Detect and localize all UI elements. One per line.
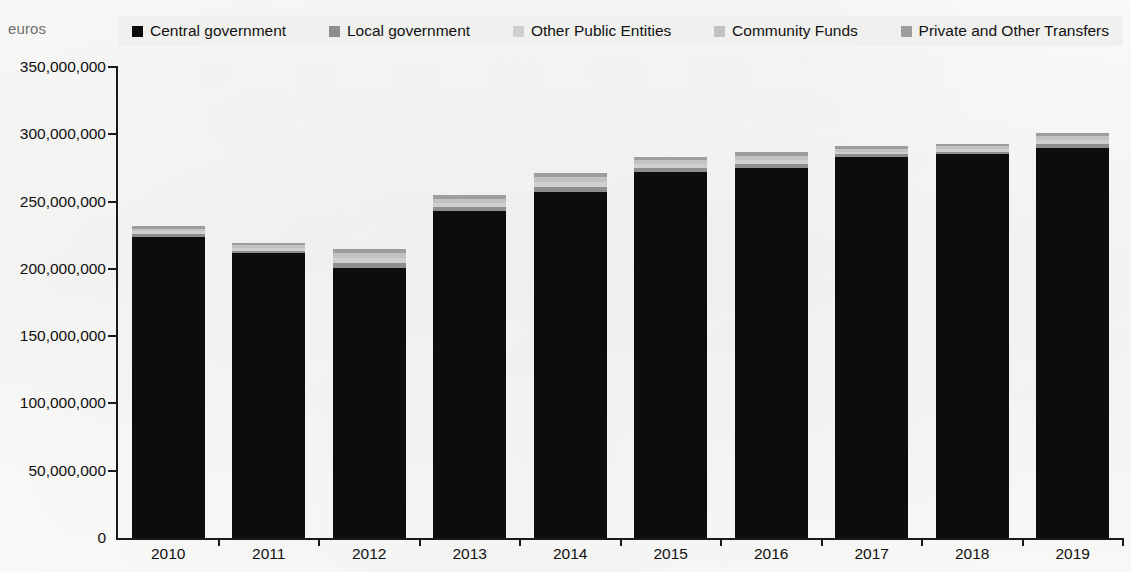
bar-segment-2012-4: [333, 249, 406, 253]
bar-segment-2016-2: [735, 160, 808, 164]
y-axis-tick-mark: [108, 470, 117, 472]
bar-segment-2018-1: [936, 152, 1009, 155]
bar-2012[interactable]: [333, 249, 406, 538]
bar-2015[interactable]: [634, 157, 707, 538]
bar-segment-2015-4: [634, 157, 707, 160]
bar-segment-2018-2: [936, 149, 1009, 152]
x-axis-tick-mark: [921, 538, 923, 546]
bar-segment-2011-1: [232, 251, 305, 253]
bar-segment-2013-1: [433, 207, 506, 211]
bar-segment-2017-3: [835, 149, 908, 152]
bar-segment-2013-3: [433, 199, 506, 203]
y-axis-tick-label: 350,000,000: [2, 58, 106, 76]
x-axis-tick-mark: [218, 538, 220, 546]
legend-item-1[interactable]: Local government: [329, 22, 470, 40]
y-axis-tick-mark: [108, 268, 117, 270]
bar-segment-2019-4: [1036, 133, 1109, 136]
bar-segment-2015-1: [634, 168, 707, 172]
legend-item-label: Private and Other Transfers: [919, 22, 1109, 40]
bar-2017[interactable]: [835, 146, 908, 538]
x-axis-tick-label-2017: 2017: [822, 545, 923, 563]
bar-segment-2016-0: [735, 168, 808, 538]
x-axis-tick-mark: [519, 538, 521, 546]
y-axis-tick-mark: [108, 335, 117, 337]
x-axis-tick-mark: [318, 538, 320, 546]
bar-segment-2018-4: [936, 144, 1009, 147]
y-axis-tick-label: 100,000,000: [2, 394, 106, 412]
bar-segment-2012-0: [333, 268, 406, 538]
y-axis-tick-label: 150,000,000: [2, 327, 106, 345]
bar-segment-2014-4: [534, 173, 607, 177]
bar-segment-2017-4: [835, 146, 908, 149]
legend-swatch-icon: [329, 26, 340, 37]
bar-segment-2014-0: [534, 192, 607, 538]
bar-segment-2013-0: [433, 211, 506, 538]
bar-segment-2014-1: [534, 187, 607, 192]
x-axis-tick-mark: [720, 538, 722, 546]
legend-swatch-icon: [513, 26, 524, 37]
bar-segment-2010-0: [132, 237, 205, 538]
legend-item-label: Other Public Entities: [531, 22, 671, 40]
x-axis-tick-label-2011: 2011: [219, 545, 320, 563]
x-axis-tick-mark: [1022, 538, 1024, 546]
x-axis-tick-label-2012: 2012: [319, 545, 420, 563]
bar-segment-2011-2: [232, 248, 305, 251]
y-axis-tick-mark: [108, 201, 117, 203]
bar-segment-2013-4: [433, 195, 506, 199]
y-axis-tick-mark: [108, 402, 117, 404]
bar-segment-2010-3: [132, 229, 205, 232]
bar-2013[interactable]: [433, 195, 506, 538]
legend-item-3[interactable]: Community Funds: [714, 22, 858, 40]
bar-segment-2019-3: [1036, 136, 1109, 140]
legend-item-label: Local government: [347, 22, 470, 40]
legend-item-2[interactable]: Other Public Entities: [513, 22, 671, 40]
bar-segment-2016-4: [735, 152, 808, 156]
plot-area: [118, 67, 1123, 538]
bar-segment-2011-3: [232, 245, 305, 248]
legend-item-label: Community Funds: [732, 22, 858, 40]
bar-segment-2017-1: [835, 154, 908, 157]
legend-swatch-icon: [901, 26, 912, 37]
bar-segment-2015-0: [634, 172, 707, 538]
bar-2019[interactable]: [1036, 133, 1109, 538]
y-axis-tick-label: 200,000,000: [2, 260, 106, 278]
bar-segment-2010-4: [132, 226, 205, 229]
bar-2010[interactable]: [132, 226, 205, 538]
stacked-bar-chart: euros Central governmentLocal government…: [0, 0, 1131, 572]
legend-item-0[interactable]: Central government: [132, 22, 286, 40]
bar-segment-2017-2: [835, 152, 908, 155]
bar-segment-2015-2: [634, 164, 707, 168]
bar-segment-2014-2: [534, 182, 607, 187]
legend-item-label: Central government: [150, 22, 286, 40]
bar-segment-2018-3: [936, 146, 1009, 149]
bar-segment-2014-3: [534, 177, 607, 182]
bar-segment-2016-1: [735, 164, 808, 168]
bar-segment-2019-0: [1036, 148, 1109, 538]
bar-2011[interactable]: [232, 243, 305, 538]
legend-item-4[interactable]: Private and Other Transfers: [901, 22, 1109, 40]
x-axis-tick-label-2016: 2016: [721, 545, 822, 563]
bar-segment-2015-3: [634, 160, 707, 164]
x-axis-tick-mark: [419, 538, 421, 546]
x-axis-tick-label-2010: 2010: [118, 545, 219, 563]
bar-2014[interactable]: [534, 173, 607, 538]
x-axis-tick-mark: [620, 538, 622, 546]
bar-segment-2016-3: [735, 156, 808, 160]
y-axis-tick-labels: 050,000,000100,000,000150,000,000200,000…: [0, 0, 106, 572]
bar-2018[interactable]: [936, 144, 1009, 538]
y-axis-tick-label: 250,000,000: [2, 193, 106, 211]
bar-segment-2010-1: [132, 234, 205, 237]
legend-swatch-icon: [132, 26, 143, 37]
bar-segment-2019-2: [1036, 140, 1109, 144]
y-axis-tick-label: 300,000,000: [2, 125, 106, 143]
bar-segment-2011-0: [232, 253, 305, 538]
x-axis-tick-label-2018: 2018: [922, 545, 1023, 563]
bar-segment-2010-2: [132, 231, 205, 234]
bar-2016[interactable]: [735, 152, 808, 538]
x-axis-tick-label-2019: 2019: [1023, 545, 1124, 563]
legend-swatch-icon: [714, 26, 725, 37]
chart-legend: Central governmentLocal governmentOther …: [118, 16, 1123, 46]
y-axis-tick-label: 0: [2, 529, 106, 547]
bar-segment-2018-0: [936, 154, 1009, 538]
bar-segment-2013-2: [433, 203, 506, 207]
